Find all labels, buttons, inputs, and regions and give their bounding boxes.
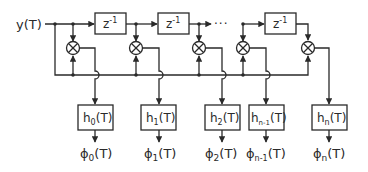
delay-exp: -1 [172,16,180,25]
svg-text:h0(T): h0(T) [83,111,112,127]
output-label-phin-1: ϕn-1(T) [246,146,286,163]
svg-text:h1(T): h1(T) [146,111,175,127]
output-label-phi1: ϕ1(T) [144,146,176,163]
svg-text:h2(T): h2(T) [210,111,239,127]
tapped-delay-line-diagram: y(T) ··· z-1 z-1 z-1 [0,0,368,172]
multiplier-icon [302,42,315,55]
output-arrows [95,130,329,142]
filter-box-hn: hn(T) [312,105,347,130]
multiplier-icon [67,42,80,55]
output-label-phi0: ϕ0(T) [80,146,112,163]
svg-text:hn(T): hn(T) [317,111,346,127]
filter-box-h2: h2(T) [205,105,240,130]
delay-exp: -1 [109,16,117,25]
output-label-phi2: ϕ2(T) [205,146,237,163]
filter-box-h1: h1(T) [141,105,176,130]
multiplier-icon [237,42,250,55]
multiplier-icon [193,42,206,55]
ellipsis: ··· [214,17,228,31]
delay-box-1: z-1 [95,13,126,34]
delay-box-3: z-1 [265,13,296,34]
delay-box-2: z-1 [158,13,189,34]
product-lines [80,48,330,104]
multiplier-icons [67,42,315,55]
filter-box-h0: h0(T) [78,105,113,130]
delay-exp: -1 [279,16,287,25]
multiplier-icon [130,42,143,55]
input-label: y(T) [16,17,42,32]
output-label-phin: ϕn(T) [313,146,345,163]
filter-box-hn-1: hn-1(T) [249,105,287,130]
